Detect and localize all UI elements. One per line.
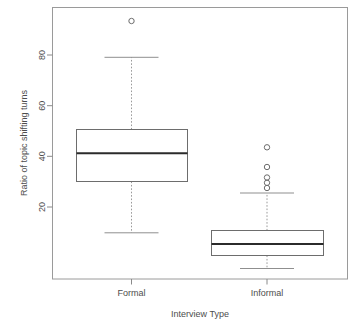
y-tick-label-20: 20 [37, 202, 47, 212]
outlier-point-informal [264, 180, 269, 185]
x-tick-label-informal: Informal [251, 288, 284, 298]
box-group-informal [212, 145, 324, 269]
box-iqr-formal [77, 130, 188, 182]
y-axis-title: Ratio of topic shifting turns [19, 89, 29, 196]
outlier-point-informal [264, 145, 269, 150]
outlier-point-informal [264, 175, 269, 180]
outlier-point-informal [264, 164, 269, 169]
y-tick-label-40: 40 [37, 151, 47, 161]
x-axis: Formal Informal Interview Type [117, 279, 283, 319]
x-axis-title: Interview Type [171, 309, 229, 319]
outlier-point-formal [129, 18, 134, 23]
boxplot-canvas: 80 60 40 20 Ratio of topic shifting turn… [0, 0, 358, 333]
boxplot-figure: 80 60 40 20 Ratio of topic shifting turn… [0, 0, 358, 333]
box-group-formal [77, 18, 188, 233]
outlier-point-informal [264, 185, 269, 190]
y-axis: 80 60 40 20 Ratio of topic shifting turn… [19, 50, 53, 212]
y-tick-label-80: 80 [37, 50, 47, 60]
y-tick-label-60: 60 [37, 101, 47, 111]
x-tick-label-formal: Formal [117, 288, 145, 298]
